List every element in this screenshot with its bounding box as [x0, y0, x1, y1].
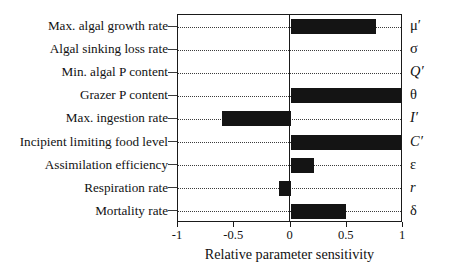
bar-row	[178, 84, 401, 107]
tick-stub	[168, 187, 177, 188]
x-axis: -1-0.500.51	[177, 222, 402, 223]
plot-area	[177, 14, 402, 222]
x-tick-label: -0.5	[213, 228, 253, 243]
x-tick-label: 0.5	[326, 228, 366, 243]
bar-row	[178, 38, 401, 61]
category-label: Max. algal growth rate	[0, 14, 168, 37]
tick-stub	[168, 118, 177, 119]
gridline	[178, 50, 401, 51]
bar-row	[178, 15, 401, 38]
bar-row	[178, 177, 401, 200]
category-label: Respiration rate	[0, 176, 168, 199]
category-label: Grazer P content	[0, 83, 168, 106]
category-label: Assimilation efficiency	[0, 153, 168, 176]
bar	[291, 19, 377, 34]
tick-stub	[168, 49, 177, 50]
category-label: Mortality rate	[0, 199, 168, 222]
bar	[291, 158, 315, 173]
category-label: Max. ingestion rate	[0, 106, 168, 129]
parameter-symbol: σ	[410, 37, 452, 60]
tick-stub	[168, 164, 177, 165]
bar-row	[178, 154, 401, 177]
parameter-symbol: Q′	[410, 60, 452, 83]
tick-stub	[168, 26, 177, 27]
bar	[291, 135, 401, 150]
bar-row	[178, 61, 401, 84]
category-label: Algal sinking loss rate	[0, 37, 168, 60]
gridline	[178, 73, 401, 74]
tick-stub	[168, 210, 177, 211]
parameter-symbol: δ	[410, 199, 452, 222]
bar-row	[178, 200, 401, 223]
x-tick-label: 0	[270, 228, 310, 243]
bar-row	[178, 131, 401, 154]
parameter-symbol: ε	[410, 153, 452, 176]
tick-stub	[168, 141, 177, 142]
gridline	[178, 211, 401, 212]
x-tick	[346, 222, 347, 227]
parameter-symbol: μ′	[410, 14, 452, 37]
parameter-symbol: I′	[410, 106, 452, 129]
sensitivity-bar-chart: Max. algal growth rateAlgal sinking loss…	[0, 0, 458, 271]
category-label: Min. algal P content	[0, 60, 168, 83]
x-axis-title: Relative parameter sensitivity	[177, 246, 402, 263]
gridline	[178, 165, 401, 166]
tick-stub	[168, 72, 177, 73]
bar	[222, 111, 291, 126]
bar	[291, 88, 401, 103]
x-tick-label: -1	[157, 228, 197, 243]
bar	[291, 204, 346, 219]
x-tick-label: 1	[382, 228, 422, 243]
x-tick	[177, 222, 178, 227]
x-tick	[233, 222, 234, 227]
x-tick	[402, 222, 403, 227]
bar-row	[178, 107, 401, 130]
parameter-symbol: θ	[410, 83, 452, 106]
tick-stub	[168, 95, 177, 96]
x-tick	[290, 222, 291, 227]
bar	[279, 181, 290, 196]
parameter-symbol: C′	[410, 130, 452, 153]
category-label: Incipient limiting food level	[0, 130, 168, 153]
parameter-symbol: r	[410, 176, 452, 199]
